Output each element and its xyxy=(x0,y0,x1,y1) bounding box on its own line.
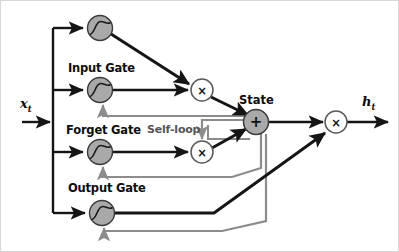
multiply-node-forget[interactable]: × xyxy=(191,141,213,163)
state-feedback-input-gate-path xyxy=(103,105,247,116)
state-label: State xyxy=(239,95,274,107)
multiply-glyph-input: × xyxy=(197,84,207,98)
self-loop-label: Self-loop xyxy=(147,124,200,135)
state-add-node[interactable]: + xyxy=(244,110,269,135)
input-signal-subscript: t xyxy=(28,104,32,114)
candidate-to-mult-input-path xyxy=(111,34,189,84)
multiply-node-output[interactable]: × xyxy=(325,111,347,133)
sigmoid-unit-output-gate[interactable] xyxy=(90,201,115,226)
input-signal-symbol: x xyxy=(20,96,28,111)
input-gate-label: Input Gate xyxy=(68,63,135,75)
multiply-glyph-output: × xyxy=(331,116,341,130)
lstm-diagram-canvas: × × + × xt ht Input Gate Forget Gate Out… xyxy=(0,0,399,252)
output-signal-subscript: t xyxy=(371,102,375,112)
forget-gate-label: Forget Gate xyxy=(66,125,141,137)
state-feedback-forget-gate-path xyxy=(103,134,261,177)
output-signal-label: ht xyxy=(362,95,375,111)
input-signal-label: xt xyxy=(20,97,32,113)
sigmoid-unit-candidate[interactable] xyxy=(88,16,113,41)
multiply-node-input[interactable]: × xyxy=(191,79,213,101)
output-gate-label: Output Gate xyxy=(68,183,146,195)
sigmoid-unit-forget-gate[interactable] xyxy=(88,140,113,165)
multiply-glyph-forget: × xyxy=(197,146,207,160)
state-add-glyph: + xyxy=(250,113,263,131)
sigmoid-unit-input-gate[interactable] xyxy=(88,78,113,103)
